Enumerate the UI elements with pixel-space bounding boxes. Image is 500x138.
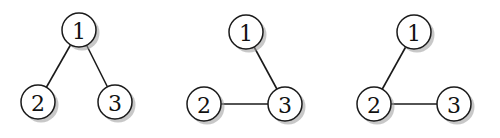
node-label: 2 <box>31 91 45 116</box>
graph-tree-2: 123 <box>187 15 306 125</box>
node-label: 2 <box>197 93 211 118</box>
node-label: 2 <box>367 93 381 118</box>
node-1: 1 <box>62 13 100 51</box>
node-label: 3 <box>108 91 122 116</box>
node-2: 2 <box>21 85 59 123</box>
node-3: 3 <box>98 85 136 123</box>
node-3: 3 <box>437 87 475 125</box>
node-label: 3 <box>278 93 292 118</box>
graph-tree-1: 123 <box>21 13 136 123</box>
spanning-trees-diagram: 123123123 <box>0 0 500 138</box>
node-label: 1 <box>239 21 253 46</box>
node-label: 1 <box>72 19 86 44</box>
node-1: 1 <box>229 15 267 53</box>
node-label: 1 <box>407 21 421 46</box>
node-label: 3 <box>447 93 461 118</box>
node-2: 2 <box>187 87 225 125</box>
node-2: 2 <box>357 87 395 125</box>
node-1: 1 <box>397 15 435 53</box>
node-3: 3 <box>268 87 306 125</box>
graph-tree-3: 123 <box>357 15 475 125</box>
